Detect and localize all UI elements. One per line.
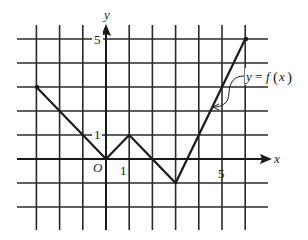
grid-lines: [17, 25, 268, 230]
x-tick-5-label: 5: [218, 166, 225, 181]
svg-text:=: =: [255, 69, 262, 84]
x-tick-1-label: 1: [120, 163, 127, 178]
x-axis-label: x: [273, 151, 280, 166]
function-label-leader: [213, 76, 244, 107]
y-tick-1-label: 1: [94, 127, 101, 142]
svg-text:x: x: [278, 69, 285, 84]
svg-text:): ): [287, 69, 292, 86]
y-tick-5-label: 5: [94, 32, 101, 47]
end-point: [244, 37, 248, 41]
origin-label: O: [93, 160, 103, 175]
svg-text:(: (: [273, 69, 278, 86]
function-graph: y x O 1 5 1 5 y = f ( x ): [0, 0, 308, 240]
axes: [17, 24, 272, 230]
start-point: [35, 85, 39, 89]
y-axis-label: y: [102, 7, 110, 22]
svg-text:y: y: [244, 69, 252, 84]
